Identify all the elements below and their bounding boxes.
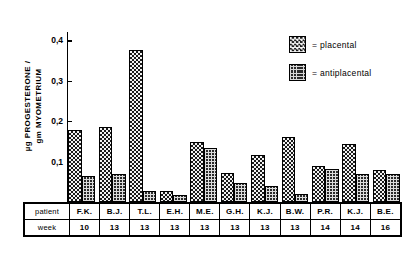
table-cell-patient: K.J. — [340, 204, 370, 220]
bar-placental — [68, 130, 81, 202]
bar-antiplacental — [112, 174, 125, 202]
legend-swatch-placental-icon — [289, 36, 306, 53]
bar-antiplacental — [265, 186, 278, 202]
legend-label-placental: = placental — [312, 40, 357, 50]
table-rowhead-week: week — [25, 220, 70, 236]
bar-placental — [221, 173, 234, 202]
table-cell-patient: E.H. — [160, 204, 190, 220]
bar-placental — [251, 155, 264, 202]
bar-group — [251, 32, 281, 202]
bar-antiplacental — [143, 191, 156, 202]
bar-antiplacental — [82, 176, 95, 202]
bar-antiplacental — [356, 174, 369, 202]
bar-placental — [342, 144, 355, 202]
bar-placental — [99, 127, 112, 202]
table-cell-week: 13 — [190, 220, 220, 236]
bar-group — [99, 32, 129, 202]
bar-group — [221, 32, 251, 202]
bar-group — [373, 32, 403, 202]
y-tick-label: 0,1 — [51, 157, 63, 166]
table-cell-patient: F.K. — [70, 204, 100, 220]
bar-placental — [312, 166, 325, 202]
y-tick-label: 0,2 — [51, 117, 63, 126]
table-cell-patient: B.J. — [100, 204, 130, 220]
table-row-week: week 1013131313131313141416 — [25, 220, 401, 236]
table-cell-week: 14 — [340, 220, 370, 236]
table-cell-patient: M.E. — [190, 204, 220, 220]
table-cell-patient: G.H. — [220, 204, 250, 220]
bar-antiplacental — [295, 194, 308, 202]
legend-label-antiplacental: = antiplacental — [312, 68, 372, 78]
bar-group — [129, 32, 159, 202]
table-rowhead-patient: patient — [25, 204, 70, 220]
bar-placental — [373, 170, 386, 202]
table-cell-patient: P.R. — [310, 204, 340, 220]
bar-antiplacental — [386, 174, 399, 202]
bar-placental — [129, 50, 142, 202]
bar-antiplacental — [173, 195, 186, 202]
table-cell-patient: T.L. — [130, 204, 160, 220]
bar-antiplacental — [204, 148, 217, 202]
legend-swatch-antiplacental-icon — [289, 64, 306, 81]
patient-week-table: patient F.K.B.J.T.L.E.H.M.E.G.H.K.J.B.W.… — [23, 202, 402, 237]
table-cell-patient: B.E. — [370, 204, 400, 220]
legend: = placental = antiplacental — [289, 36, 372, 92]
y-axis-label-line1: µg PROGESTERONE / — [22, 21, 33, 191]
legend-item-antiplacental: = antiplacental — [289, 64, 372, 81]
table-row-patient: patient F.K.B.J.T.L.E.H.M.E.G.H.K.J.B.W.… — [25, 204, 401, 220]
table-cell-patient: K.J. — [250, 204, 280, 220]
table-cell-week: 13 — [130, 220, 160, 236]
y-axis-label: µg PROGESTERONE / gm MYOMETRIUM — [22, 21, 44, 191]
bar-group — [190, 32, 220, 202]
table-cell-week: 13 — [100, 220, 130, 236]
bar-antiplacental — [234, 183, 247, 202]
bar-group — [160, 32, 190, 202]
table-cell-week: 14 — [310, 220, 340, 236]
table-cell-week: 13 — [280, 220, 310, 236]
y-tick-label: 0,4 — [51, 36, 63, 45]
table-cell-week: 16 — [370, 220, 400, 236]
y-axis-label-line2: gm MYOMETRIUM — [33, 21, 44, 191]
table-cell-week: 13 — [160, 220, 190, 236]
bar-placental — [190, 142, 203, 202]
table-cell-patient: B.W. — [280, 204, 310, 220]
bar-group — [68, 32, 98, 202]
table-cell-week: 13 — [220, 220, 250, 236]
bar-placental — [160, 191, 173, 202]
bar-placental — [282, 137, 295, 202]
bar-antiplacental — [325, 169, 338, 202]
figure: µg PROGESTERONE / gm MYOMETRIUM 0,10,20,… — [0, 0, 417, 258]
table-cell-week: 13 — [250, 220, 280, 236]
legend-item-placental: = placental — [289, 36, 372, 53]
y-tick-label: 0,3 — [51, 76, 63, 85]
table-cell-week: 10 — [70, 220, 100, 236]
